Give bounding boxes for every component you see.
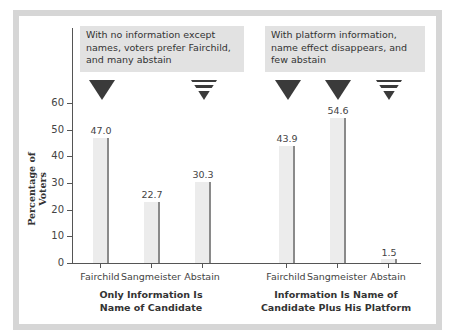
group-title-right-line-1: Information Is Name of — [251, 288, 421, 301]
callout-right-line-1: With platform information, — [271, 29, 419, 42]
callout-right-line-3: few abstain — [271, 54, 419, 67]
y-tick — [67, 130, 72, 131]
solid-triangle-icon — [275, 80, 301, 100]
callout-left-line-1: With no information except — [86, 29, 238, 42]
y-tick-label: 30 — [44, 178, 64, 188]
x-tick — [202, 263, 203, 268]
x-tick — [337, 263, 338, 268]
y-tick — [67, 103, 72, 104]
callout-right-line-2: name effect disappears, and — [271, 42, 419, 55]
y-tick-label: 50 — [44, 125, 64, 135]
striped-triangle-icon — [191, 80, 217, 100]
y-tick-label: 20 — [44, 205, 64, 215]
y-tick — [67, 183, 72, 184]
group-title-right: Information Is Name of Candidate Plus Hi… — [251, 288, 421, 314]
y-axis — [72, 28, 73, 264]
group-title-left: Only Information Is Name of Candidate — [66, 288, 236, 314]
x-category-label: Abstain — [167, 271, 237, 282]
x-tick — [388, 263, 389, 268]
x-tick — [286, 263, 287, 268]
bar-value-label: 54.6 — [318, 105, 358, 116]
x-tick — [151, 263, 152, 268]
bar-g1-abstain — [195, 182, 211, 263]
callout-left: With no information except names, voters… — [80, 26, 244, 72]
y-tick-label: 60 — [44, 98, 64, 108]
callout-left-line-2: names, voters prefer Fairchild, — [86, 42, 238, 55]
striped-triangle-icon — [376, 80, 402, 100]
callout-left-line-3: and many abstain — [86, 54, 238, 67]
bar-value-label: 22.7 — [132, 189, 172, 200]
group-title-left-line-2: Name of Candidate — [66, 301, 236, 314]
y-tick — [67, 156, 72, 157]
bar-g2-fairchild — [279, 146, 295, 263]
y-tick-label: 0 — [44, 258, 64, 268]
group-title-left-line-1: Only Information Is — [66, 288, 236, 301]
y-tick-label: 40 — [44, 151, 64, 161]
x-category-label: Abstain — [353, 271, 423, 282]
bar-g1-sangmeister — [144, 202, 160, 263]
bar-value-label: 30.3 — [183, 169, 223, 180]
y-tick — [67, 263, 72, 264]
bar-g2-sangmeister — [330, 118, 346, 263]
bar-g1-fairchild — [93, 138, 109, 263]
y-tick — [67, 236, 72, 237]
x-axis — [72, 263, 421, 264]
solid-triangle-icon — [89, 80, 115, 100]
x-tick — [100, 263, 101, 268]
group-title-right-line-2: Candidate Plus His Platform — [251, 301, 421, 314]
y-tick — [67, 210, 72, 211]
bar-value-label: 47.0 — [81, 125, 121, 136]
bar-value-label: 1.5 — [369, 247, 409, 258]
callout-right: With platform information, name effect d… — [265, 26, 425, 72]
solid-triangle-icon — [325, 80, 351, 100]
bar-g2-abstain — [381, 259, 397, 263]
y-tick-label: 10 — [44, 231, 64, 241]
bar-value-label: 43.9 — [267, 133, 307, 144]
